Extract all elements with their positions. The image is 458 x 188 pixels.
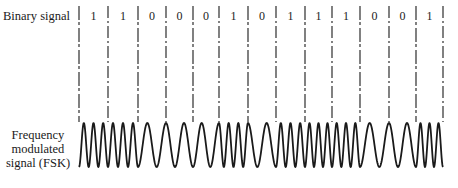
bit-label: 1 [231, 9, 237, 23]
bit-label: 1 [120, 9, 126, 23]
bit-label: 0 [203, 9, 209, 23]
bit-label: 0 [372, 9, 378, 23]
bit-value-labels: 1100010111001 [91, 9, 433, 23]
bit-label: 1 [288, 9, 294, 23]
bit-label: 0 [177, 9, 183, 23]
bit-label: 0 [259, 9, 265, 23]
bit-label: 0 [149, 9, 155, 23]
bit-label: 1 [343, 9, 349, 23]
bit-label: 0 [400, 9, 406, 23]
bit-label: 1 [91, 9, 97, 23]
bit-label: 1 [316, 9, 322, 23]
fsk-waveform [79, 123, 443, 167]
bit-boundary-lines [79, 6, 443, 122]
fsk-diagram: 1100010111001 [0, 0, 458, 188]
bit-label: 1 [427, 9, 433, 23]
